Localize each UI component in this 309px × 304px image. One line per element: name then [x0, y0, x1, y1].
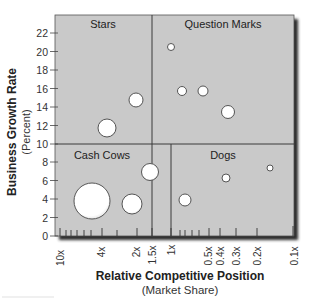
y-tick-label: 16: [36, 83, 48, 95]
bubble: [178, 87, 187, 96]
y-tick-label: 8: [42, 156, 48, 168]
bubble: [122, 194, 142, 214]
quadrant-label-dogs: Dogs: [210, 149, 236, 161]
quadrant-label-stars: Stars: [90, 18, 116, 30]
bubble: [142, 164, 159, 181]
x-axis-subtitle: (Market Share): [60, 284, 300, 296]
bcg-matrix-chart: Stars Question Marks Cash Cows Dogs: [0, 0, 309, 304]
y-tick-label: 0: [42, 230, 48, 242]
x-tick-label: 10x: [55, 250, 66, 266]
x-tick-label: 0.4x: [215, 247, 226, 266]
y-tick-label: 12: [36, 120, 48, 132]
y-tick-label: 10: [36, 138, 48, 150]
bubble: [168, 44, 175, 51]
y-tick-label: 14: [36, 101, 48, 113]
bubble: [98, 119, 116, 137]
y-axis-title: Business Growth Rate: [5, 68, 19, 196]
x-tick-label: 0.3x: [231, 247, 242, 266]
bubble: [129, 93, 143, 107]
y-tick-label: 2: [42, 212, 48, 224]
x-tick-label: 1.5x: [147, 246, 158, 265]
bubble: [222, 106, 235, 119]
bubble: [198, 86, 208, 96]
x-tick-label: 0.2x: [252, 247, 263, 266]
x-tick-label: 4x: [96, 247, 107, 258]
y-tick-label: 6: [42, 175, 48, 187]
x-axis: 10x 4x 2x 1.5x 1x 0.5x 0.4x 0.3x 0.2x 0.…: [55, 245, 300, 266]
x-tick-label: 2x: [131, 247, 142, 258]
quadrant-label-cash-cows: Cash Cows: [74, 149, 131, 161]
x-tick-label: 0.1x: [289, 247, 300, 266]
divider: [2, 296, 54, 298]
x-axis-title: Relative Competitive Position: [60, 269, 300, 283]
x-tick-label: 1x: [166, 245, 177, 256]
bubble: [267, 165, 273, 171]
x-tick-label: 0.5x: [203, 247, 214, 266]
y-tick-label: 4: [42, 193, 48, 205]
y-tick-label: 18: [36, 64, 48, 76]
y-tick-label: 22: [36, 27, 48, 39]
bubble: [222, 174, 230, 182]
bubble: [74, 183, 110, 219]
quadrant-label-question-marks: Question Marks: [184, 18, 262, 30]
y-axis-subtitle: (Percent): [20, 109, 32, 154]
bubble: [179, 194, 191, 206]
y-tick-label: 20: [36, 46, 48, 58]
